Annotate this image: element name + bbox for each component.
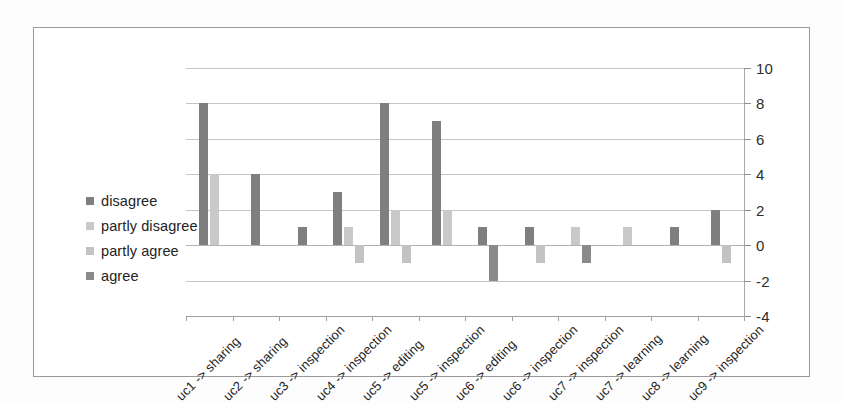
bar-disagree <box>380 103 389 245</box>
bar-disagree <box>298 227 307 245</box>
bar-disagree <box>333 192 342 245</box>
bar-disagree <box>478 227 487 245</box>
x-axis-category-labels: uc1 -> sharinguc2 -> sharinguc3 -> inspe… <box>186 317 744 404</box>
legend-item-disagree: disagree <box>86 189 206 213</box>
y-axis-line <box>744 68 745 316</box>
bar-partly-disagree <box>210 174 219 245</box>
bar-partly-agree <box>536 245 545 263</box>
y-tick-label: -2 <box>756 272 770 289</box>
y-tick-label: 6 <box>756 130 765 147</box>
x-category-label: uc5 -> inspection <box>406 322 488 404</box>
bar-partly-disagree <box>623 227 632 245</box>
y-tick-6 <box>744 139 751 140</box>
bar-partly-disagree <box>344 227 353 245</box>
y-tick-label: 2 <box>756 201 765 218</box>
y-tick-0 <box>744 245 751 246</box>
bar-group <box>465 68 512 316</box>
x-category-label: uc6 -> inspection <box>499 322 581 404</box>
bar-group <box>326 68 373 316</box>
bar-partly-disagree <box>391 210 400 245</box>
bar-partly-agree <box>355 245 364 263</box>
bar-partly-agree <box>402 245 411 263</box>
y-tick-label: 4 <box>756 166 765 183</box>
y-tick-2 <box>744 210 751 211</box>
bar-group <box>372 68 419 316</box>
y-tick-label: 10 <box>756 60 773 77</box>
y-tick--4 <box>744 316 751 317</box>
y-tick-8 <box>744 103 751 104</box>
bar-disagree <box>711 210 720 245</box>
legend-item-partly-disagree: partly disagree <box>86 214 206 238</box>
legend-label: disagree <box>101 193 157 209</box>
legend-swatch-icon <box>86 272 94 280</box>
legend-swatch-icon <box>86 197 94 205</box>
bar-partly-disagree <box>443 210 452 245</box>
legend-label: agree <box>101 268 139 284</box>
bar-group <box>651 68 698 316</box>
plot-area <box>186 68 744 316</box>
y-tick-label: 0 <box>756 237 765 254</box>
bar-disagree <box>670 227 679 245</box>
bar-group <box>233 68 280 316</box>
y-tick-label: 8 <box>756 95 765 112</box>
bar-disagree <box>251 174 260 245</box>
bar-chart-figure: -4-20246810 uc1 -> sharinguc2 -> sharing… <box>0 0 843 404</box>
bar-group <box>558 68 605 316</box>
bar-group <box>698 68 745 316</box>
bar-group <box>279 68 326 316</box>
bar-disagree <box>525 227 534 245</box>
y-tick-4 <box>744 174 751 175</box>
x-tick <box>744 316 745 321</box>
bar-agree <box>489 245 498 280</box>
bar-disagree <box>432 121 441 245</box>
bar-group <box>605 68 652 316</box>
bar-group <box>512 68 559 316</box>
legend-item-agree: agree <box>86 264 206 288</box>
y-tick--2 <box>744 281 751 282</box>
y-tick-10 <box>744 68 751 69</box>
bar-group <box>419 68 466 316</box>
bar-partly-disagree <box>571 227 580 245</box>
chart-plot-frame: -4-20246810 uc1 -> sharinguc2 -> sharing… <box>33 27 810 377</box>
legend-swatch-icon <box>86 222 94 230</box>
legend-label: partly agree <box>101 243 179 259</box>
bar-agree <box>582 245 591 263</box>
legend-item-partly-agree: partly agree <box>86 239 206 263</box>
y-tick-label: -4 <box>756 308 770 325</box>
legend-swatch-icon <box>86 247 94 255</box>
chart-legend: disagreepartly disagreepartly agreeagree <box>86 189 206 289</box>
bar-partly-agree <box>722 245 731 263</box>
legend-label: partly disagree <box>101 218 198 234</box>
